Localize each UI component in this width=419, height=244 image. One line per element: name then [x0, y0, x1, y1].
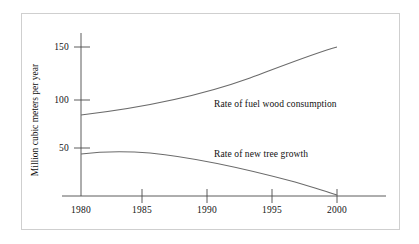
series-label-fuel-wood: Rate of fuel wood consumption — [214, 99, 337, 109]
y-tick-label-150: 150 — [47, 42, 69, 52]
x-tick-label-1985: 1985 — [132, 205, 152, 215]
x-tick-label-1980: 1980 — [71, 205, 91, 215]
series-label-tree-growth: Rate of new tree growth — [214, 149, 308, 159]
x-tick-label-1995: 1995 — [262, 205, 282, 215]
x-tick-label-1990: 1990 — [197, 205, 217, 215]
chart-figure: 150 100 50 1980 1985 1990 1995 2000 Mill… — [0, 0, 419, 244]
y-tick-label-100: 100 — [47, 95, 69, 105]
x-tick-label-2000: 2000 — [327, 205, 347, 215]
y-axis-title: Million cubic meters per year — [28, 50, 42, 190]
y-axis-title-text: Million cubic meters per year — [30, 64, 40, 176]
y-tick-label-50: 50 — [47, 143, 69, 153]
